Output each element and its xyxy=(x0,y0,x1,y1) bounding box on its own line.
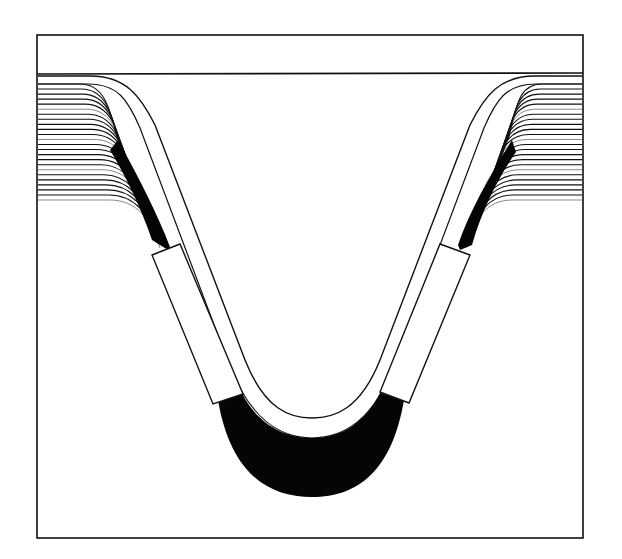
diagram-stage xyxy=(0,0,622,559)
top-band-line xyxy=(37,73,583,74)
trough-cross-section-diagram xyxy=(0,0,622,559)
